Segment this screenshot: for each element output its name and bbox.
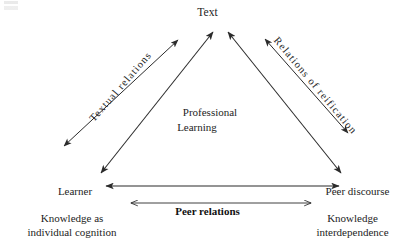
node-sublabel-learner-line2: individual cognition [28, 226, 117, 238]
edge-learner-to-text [101, 32, 213, 173]
node-label-learner: Learner [20, 184, 130, 198]
node-label-peer-discourse: Peer discourse [300, 184, 415, 198]
node-sublabel-peer-discourse-line2: interdependence [316, 226, 388, 238]
center-label-line1: Professional [150, 105, 258, 120]
center-label-line2: Learning [150, 120, 258, 135]
edge-label-peer-relations: Peer relations [0, 205, 415, 217]
center-label-professional-learning: Professional Learning [150, 105, 258, 135]
professional-learning-triangle-diagram: Text Learner Peer discourse Knowledge as… [0, 0, 415, 251]
node-label-text: Text [0, 5, 415, 20]
